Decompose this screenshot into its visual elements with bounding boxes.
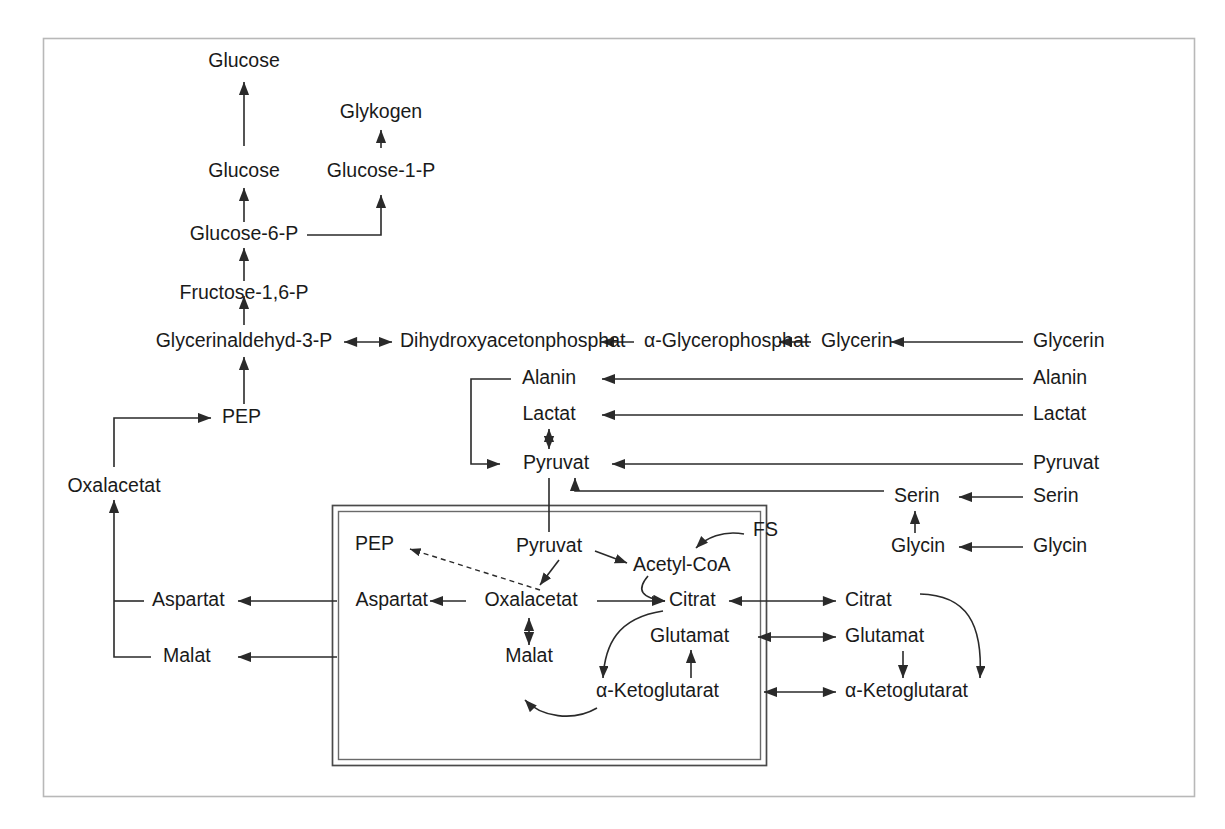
node-serin-ext: Serin — [1033, 484, 1079, 506]
edge-citrat-to-ketoglutarat-cyt — [920, 594, 980, 678]
node-glutamat-mito: Glutamat — [650, 624, 730, 646]
node-fructose-1-6-p: Fructose-1,6-P — [180, 281, 309, 303]
node-citrat-cyt: Citrat — [845, 588, 892, 610]
node-glucose-6-p: Glucose-6-P — [190, 222, 298, 244]
edge-malat-to-oxalacetat-cyt — [114, 500, 151, 657]
edge-fs-to-acetylcoa — [696, 533, 744, 548]
edge-alanin-to-pyruvat — [471, 379, 511, 464]
edge-g6p-to-g1p — [307, 195, 381, 235]
node-oxalacetat-mito: Oxalacetat — [484, 588, 578, 610]
node-serin-cyt: Serin — [894, 484, 940, 506]
node-citrat-mito: Citrat — [669, 588, 716, 610]
node-glycerin-ext: Glycerin — [1033, 329, 1105, 351]
node-glucose-1-p: Glucose-1-P — [327, 159, 435, 181]
node-oxalacetat-cyt: Oxalacetat — [67, 474, 161, 496]
node-glykogen: Glykogen — [340, 100, 422, 122]
node-glycerinaldehyd-3-p: Glycerinaldehyd-3-P — [156, 329, 333, 351]
edge-acetylcoa-to-citrat — [642, 576, 665, 601]
node-pep-mito: PEP — [355, 532, 394, 554]
node-malat-mito: Malat — [505, 644, 553, 666]
node-pyruvat-ext: Pyruvat — [1033, 451, 1100, 473]
node-dihydroxyacetonphosphat: Dihydroxyacetonphosphat — [400, 329, 626, 351]
node-aspartat-mito: Aspartat — [355, 588, 428, 610]
node-fs: FS — [753, 518, 778, 540]
edge-serin-to-pyruvat — [575, 478, 884, 491]
node-aspartat-cyt: Aspartat — [152, 588, 225, 610]
node-glucose-cell: Glucose — [208, 159, 280, 181]
edge-oxalacetat-to-pep-cyt — [114, 418, 211, 467]
node-alanin-cyt: Alanin — [522, 366, 576, 388]
node-acetyl-coa: Acetyl-CoA — [633, 553, 731, 575]
node-alpha-glycerophosphat: α-Glycerophosphat — [644, 329, 810, 351]
node-lactat-ext: Lactat — [1033, 402, 1087, 424]
edge-ketoglutarat-to-malat-mito — [525, 700, 597, 716]
edge-pyruvat-to-oxalacetat — [540, 560, 559, 585]
node-alanin-ext: Alanin — [1033, 366, 1087, 388]
node-glucose-out: Glucose — [208, 49, 280, 71]
node-pep-cyt: PEP — [222, 405, 261, 427]
node-malat-cyt: Malat — [163, 644, 211, 666]
node-glycin-ext: Glycin — [1033, 534, 1087, 556]
node-ketoglutarat-mito: α-Ketoglutarat — [596, 679, 720, 701]
node-glycin-cyt: Glycin — [891, 534, 945, 556]
node-pyruvat-cyt: Pyruvat — [523, 451, 590, 473]
edge-pyruvat-to-acetylcoa — [595, 551, 627, 563]
pathway-diagram-canvas: Glucose Glykogen Glucose Glucose-1-P Glu… — [0, 0, 1225, 829]
node-glutamat-cyt: Glutamat — [845, 624, 925, 646]
pathway-diagram-page: Glucose Glykogen Glucose Glucose-1-P Glu… — [0, 0, 1225, 829]
node-pyruvat-mito: Pyruvat — [516, 534, 583, 556]
node-glycerin-cyt: Glycerin — [821, 329, 893, 351]
node-ketoglutarat-cyt: α-Ketoglutarat — [845, 679, 969, 701]
node-lactat-cyt: Lactat — [522, 402, 576, 424]
